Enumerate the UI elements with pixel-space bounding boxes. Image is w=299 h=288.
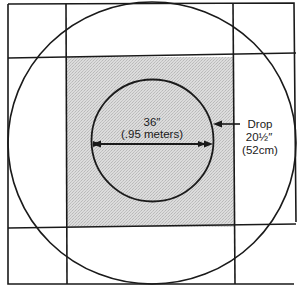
diameter-label: 36″ <box>144 116 161 128</box>
drop-value-label: 20½″ <box>246 131 272 143</box>
drop-metric-label: (52cm) <box>242 144 278 156</box>
grid-vertical-left <box>66 4 67 284</box>
grid-vertical-right <box>233 3 235 284</box>
diameter-metric-label: (.95 meters) <box>121 128 183 140</box>
tablecloth-diagram: 36″ (.95 meters) Drop 20½″ (52cm) <box>0 0 299 288</box>
drop-label: Drop <box>248 118 273 130</box>
